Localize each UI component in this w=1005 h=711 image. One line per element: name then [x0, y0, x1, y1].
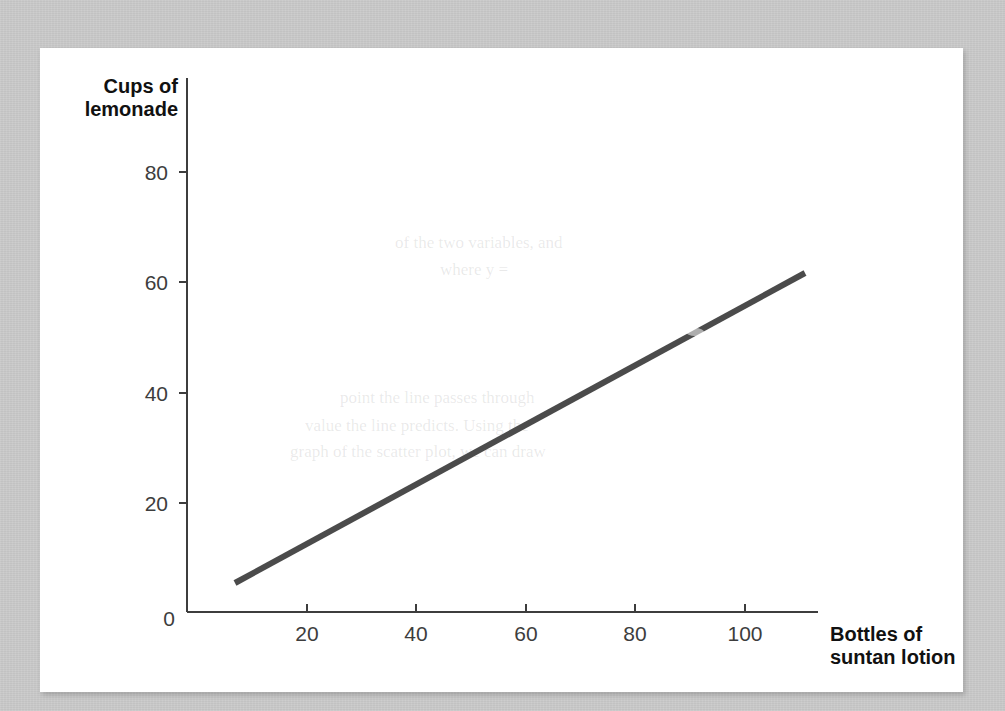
origin-label: 0 — [163, 607, 175, 630]
y-tick-label-20: 20 — [145, 492, 168, 515]
x-tick-label-40: 40 — [404, 622, 427, 645]
x-axis-title-line1: Bottles of — [830, 623, 923, 645]
line-chart: 80 60 40 20 0 20 40 60 80 100 Cups of le… — [40, 48, 963, 692]
x-tick-label-60: 60 — [514, 622, 537, 645]
x-tick-label-20: 20 — [295, 622, 318, 645]
x-tick-label-80: 80 — [623, 622, 646, 645]
trend-line — [235, 273, 805, 583]
y-tick-label-80: 80 — [145, 161, 168, 184]
figure-card: of the two variables, and where y = poin… — [40, 48, 963, 692]
scan-smudge — [686, 328, 704, 336]
y-axis-title-line2: lemonade — [85, 98, 178, 120]
y-axis-title-line1: Cups of — [104, 75, 179, 97]
y-tick-group — [179, 172, 187, 503]
x-tick-label-100: 100 — [727, 622, 762, 645]
y-tick-label-40: 40 — [145, 382, 168, 405]
x-tick-group — [307, 604, 745, 612]
y-tick-label-60: 60 — [145, 271, 168, 294]
x-axis-title-line2: suntan lotion — [830, 646, 956, 668]
